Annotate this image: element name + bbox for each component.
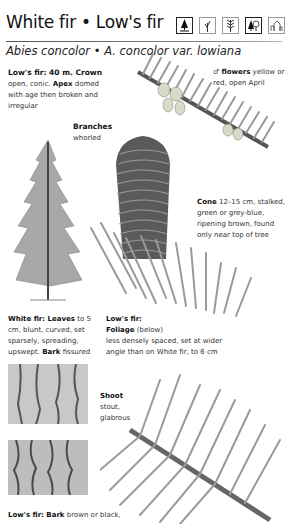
page-title: White fir • Low's fir xyxy=(6,12,163,32)
lows-fir-foliage-caption: Low's fir: Foliage (below) less densely … xyxy=(106,314,236,358)
lows-fir-bark-caption: Low's fir: Bark brown or black, xyxy=(8,510,158,521)
tree-silhouette-icon xyxy=(176,17,193,34)
habitat-icon-row xyxy=(176,17,285,34)
leaf-spray-icon xyxy=(222,17,239,34)
white-fir-leaves-caption: White fir: Leaves to 5 cm, blunt, curved… xyxy=(8,314,96,358)
cone-caption: Cone 12–15 cm, stalked, green or grey-bl… xyxy=(197,197,289,241)
male-symbol-icon: ♂ xyxy=(213,68,219,76)
tree-and-broadleaf-icon xyxy=(245,17,262,34)
shoot-caption: Shoot stout, glabrous xyxy=(100,391,140,424)
twig-icon xyxy=(199,17,216,34)
lows-fir-bark-illustration xyxy=(8,440,88,495)
lows-fir-crown-caption: Low's fir: 40 m. Crown open, conic. Apex… xyxy=(8,67,108,112)
header-divider xyxy=(6,41,282,42)
branches-caption: Branches whorled xyxy=(73,121,123,144)
tree-illustration xyxy=(10,140,85,305)
flowers-caption: ♂ flowers yellow or red, open April xyxy=(213,67,289,89)
white-fir-bark-illustration xyxy=(8,364,88,424)
buildings-icon xyxy=(268,17,285,34)
